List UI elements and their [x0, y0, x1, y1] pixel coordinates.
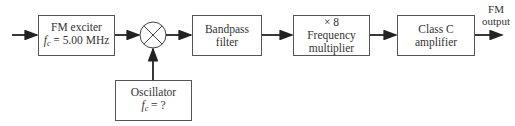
- exciter-frequency: fc = 5.00 MHz: [44, 34, 110, 50]
- multiplier-label-1: Frequency: [307, 29, 356, 42]
- amplifier-label-1: Class C: [418, 23, 453, 36]
- oscillator-frequency: fc = ?: [141, 99, 165, 115]
- exciter-label: FM exciter: [51, 21, 102, 34]
- class-c-amplifier-block: Class C amplifier: [397, 15, 475, 56]
- amplifier-label-2: amplifier: [415, 36, 457, 49]
- multiplier-factor: × 8: [324, 16, 339, 29]
- filter-label-1: Bandpass: [205, 23, 249, 36]
- oscillator-block: Oscillator fc = ?: [115, 80, 192, 121]
- bandpass-filter-block: Bandpass filter: [192, 15, 262, 56]
- frequency-multiplier-block: × 8 Frequency multiplier: [293, 15, 370, 56]
- fm-exciter-block: FM exciter fc = 5.00 MHz: [38, 15, 115, 56]
- fm-output-label: FM output: [478, 3, 514, 27]
- filter-label-2: filter: [216, 36, 238, 49]
- multiplier-label-2: multiplier: [309, 42, 354, 55]
- oscillator-label: Oscillator: [131, 86, 176, 99]
